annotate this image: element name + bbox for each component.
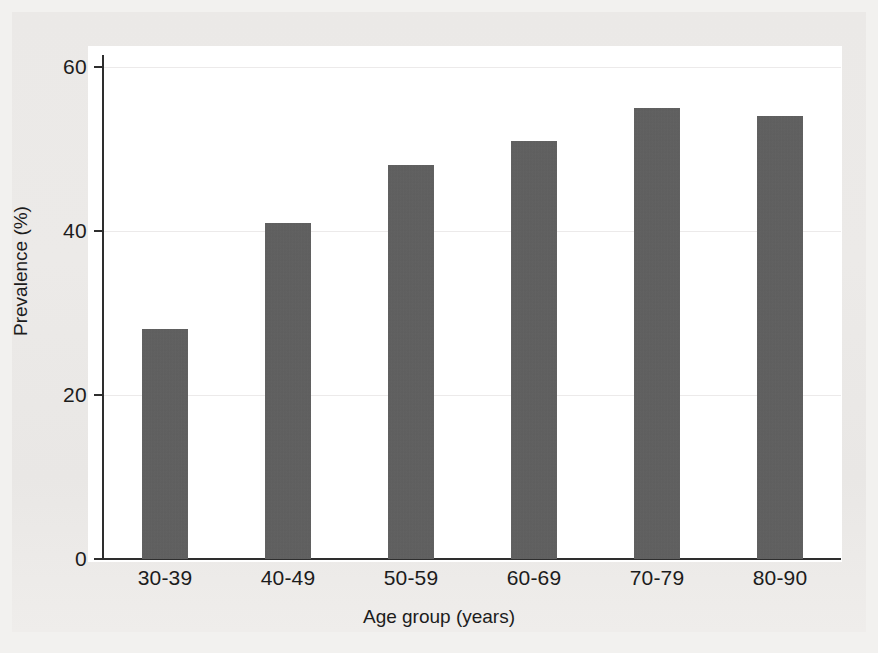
y-axis-tick-label: 40 [63, 219, 87, 243]
plot-canvas [88, 46, 842, 562]
bar-80-90 [757, 116, 803, 559]
y-axis-tick-60: 60 [94, 66, 103, 68]
x-axis-tick-label-60-69: 60-69 [474, 566, 594, 590]
y-axis-tick-label: 20 [63, 383, 87, 407]
y-axis-spine [102, 55, 104, 560]
y-axis-tick-40: 40 [94, 230, 103, 232]
gridline-y-20 [104, 395, 841, 396]
figure-root: 020406030-3940-4950-5960-6970-7980-90 Pr… [0, 0, 878, 653]
y-axis-tick-0: 0 [94, 558, 103, 560]
bar-60-69 [511, 141, 557, 559]
x-axis-tick-label-70-79: 70-79 [597, 566, 717, 590]
x-axis-tick-label-80-90: 80-90 [720, 566, 840, 590]
bar-30-39 [142, 329, 188, 559]
x-axis-tick-label-50-59: 50-59 [351, 566, 471, 590]
bar-70-79 [634, 108, 680, 559]
x-axis-tick-label-30-39: 30-39 [105, 566, 225, 590]
bar-50-59 [388, 165, 434, 559]
y-axis-title: Prevalence (%) [10, 206, 32, 336]
bar-40-49 [265, 223, 311, 559]
y-axis-tick-20: 20 [94, 394, 103, 396]
gridline-y-60 [104, 67, 841, 68]
x-axis-spine [102, 558, 841, 560]
gridline-y-40 [104, 231, 841, 232]
y-axis-tick-label: 0 [75, 547, 87, 571]
y-axis-tick-label: 60 [63, 55, 87, 79]
x-axis-tick-label-40-49: 40-49 [228, 566, 348, 590]
x-axis-title: Age group (years) [0, 606, 878, 628]
